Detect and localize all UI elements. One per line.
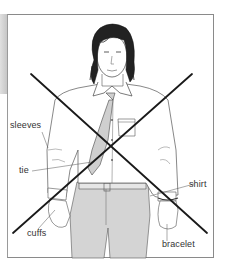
man-illustration xyxy=(0,0,228,266)
label-shirt: shirt xyxy=(189,180,207,189)
head xyxy=(90,24,135,86)
label-cuffs: cuffs xyxy=(27,229,46,238)
label-sleeves: sleeves xyxy=(10,121,41,130)
label-tie: tie xyxy=(19,166,29,175)
trousers xyxy=(70,182,150,258)
label-bracelet: bracelet xyxy=(162,240,195,249)
